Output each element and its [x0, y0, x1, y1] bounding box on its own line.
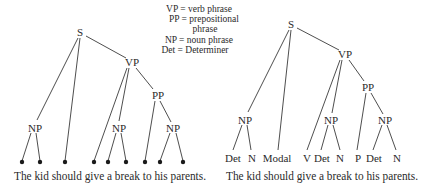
leaf-dot [106, 160, 110, 164]
syntax-tree-diagram: S VP PP NP NP NP The kid should give a b… [0, 0, 430, 194]
leaf-label-det: Det [366, 152, 382, 164]
leaf-label-modal: Modal [263, 152, 292, 164]
right-node-s: S [288, 18, 294, 30]
leaf-dot [92, 160, 96, 164]
leaf-label-v: V [303, 152, 311, 164]
left-sentence: The kid should give a break to his paren… [14, 170, 206, 183]
leaf-dot [143, 160, 147, 164]
leaf-dot [63, 160, 67, 164]
right-tree: S VP PP NP NP NP Det N Modal V Det N P D… [225, 18, 418, 183]
leaf-dot [38, 160, 42, 164]
legend-pp: PP = prepositional [169, 14, 239, 24]
left-leaf-dots [20, 160, 185, 164]
legend-pp-cont: phrase [193, 24, 218, 34]
legend-np: NP = noun phrase [165, 35, 233, 45]
leaf-dot [20, 160, 24, 164]
left-node-vp: VP [125, 56, 139, 68]
left-node-s: S [77, 26, 83, 38]
left-node-np-prep-object: NP [166, 122, 180, 134]
leaf-label-n: N [336, 152, 344, 164]
right-node-np-subject: NP [238, 114, 252, 126]
right-node-vp: VP [338, 48, 352, 60]
leaf-label-det: Det [314, 152, 330, 164]
leaf-dot [124, 160, 128, 164]
legend-vp: VP = verb phrase [166, 4, 232, 14]
right-node-pp: PP [362, 81, 374, 93]
left-node-pp: PP [152, 89, 164, 101]
legend: VP = verb phrase PP = prepositional phra… [161, 4, 239, 55]
right-sentence: The kid should give a break to his paren… [226, 170, 418, 183]
leaf-label-n: N [248, 152, 256, 164]
left-node-np-object: NP [112, 122, 126, 134]
legend-det: Det = Determiner [161, 45, 229, 55]
left-node-np-subject: NP [28, 122, 42, 134]
leaf-dot [181, 160, 185, 164]
leaf-dot [158, 160, 162, 164]
right-node-np-object: NP [324, 114, 338, 126]
leaf-label-p: P [355, 152, 361, 164]
right-leaf-labels: Det N Modal V Det N P Det N [225, 152, 401, 164]
right-node-np-prep-object: NP [378, 114, 392, 126]
leaf-label-det: Det [225, 152, 241, 164]
leaf-label-n: N [393, 152, 401, 164]
